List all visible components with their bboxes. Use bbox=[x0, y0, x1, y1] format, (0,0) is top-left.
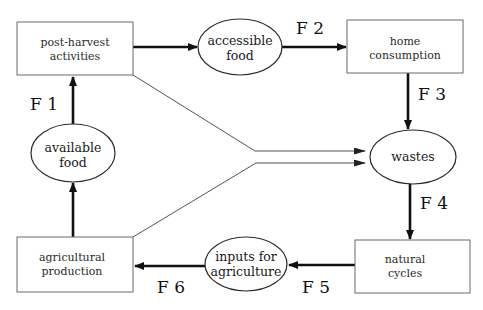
node-label: agriculture bbox=[211, 264, 282, 279]
node-accessible-food: accessible food bbox=[198, 19, 282, 75]
flow-label-f3: F 3 bbox=[418, 84, 446, 104]
node-available-food: available food bbox=[31, 124, 115, 182]
node-label: cycles bbox=[388, 267, 423, 280]
node-label: natural bbox=[385, 253, 426, 266]
connector-agricultural-production-to-wastes bbox=[133, 163, 365, 237]
node-label: production bbox=[42, 265, 103, 278]
node-label: home bbox=[390, 35, 421, 48]
flow-label-f4: F 4 bbox=[420, 193, 448, 213]
node-label: activities bbox=[50, 50, 101, 63]
food-flow-diagram: post-harvest activities home consumption… bbox=[0, 0, 483, 310]
connector-post-harvest-to-wastes bbox=[133, 75, 365, 151]
flow-label-f1: F 1 bbox=[30, 94, 58, 114]
node-label: agricultural bbox=[39, 251, 105, 264]
flow-label-f5: F 5 bbox=[302, 277, 330, 297]
node-label: consumption bbox=[369, 49, 441, 62]
node-label: inputs for bbox=[215, 249, 277, 264]
node-label: food bbox=[59, 155, 87, 170]
node-inputs-for-agriculture: inputs for agriculture bbox=[205, 237, 287, 291]
node-agricultural-production: agricultural production bbox=[17, 237, 133, 292]
flow-label-f2: F 2 bbox=[296, 18, 324, 38]
node-label: available bbox=[45, 140, 102, 155]
node-label: food bbox=[226, 48, 254, 63]
node-label: accessible bbox=[207, 33, 272, 48]
node-label: post-harvest bbox=[40, 36, 110, 49]
node-wastes: wastes bbox=[370, 130, 456, 184]
node-natural-cycles: natural cycles bbox=[355, 240, 470, 293]
flow-label-f6: F 6 bbox=[157, 277, 185, 297]
node-label: wastes bbox=[391, 149, 434, 164]
node-home-consumption: home consumption bbox=[347, 20, 463, 73]
node-post-harvest-activities: post-harvest activities bbox=[17, 22, 133, 75]
